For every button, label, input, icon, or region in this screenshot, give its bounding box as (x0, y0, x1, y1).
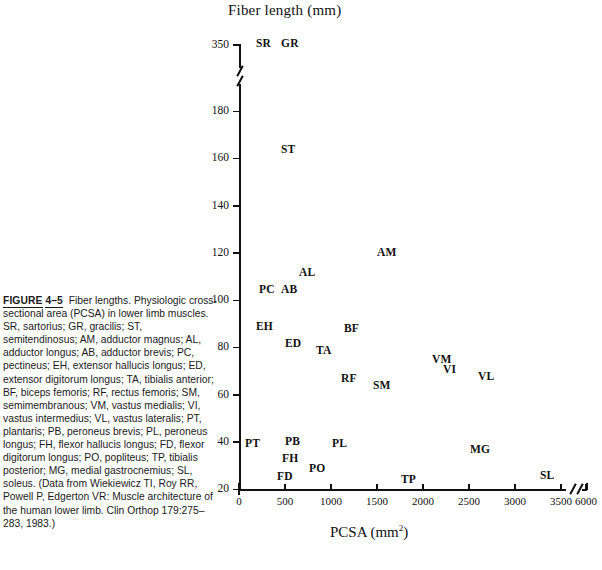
y-tick-label-160: 160 (195, 151, 229, 163)
y-tick-40 (233, 441, 239, 443)
data-point-pc: PC (259, 283, 275, 295)
x-axis-title: PCSA (mm2) (330, 523, 408, 541)
x-tick-6000 (585, 484, 587, 490)
figure-caption-text: Fiber lengths. Physiologic cross-section… (3, 295, 217, 529)
data-point-sm: SM (373, 379, 391, 391)
y-tick-350 (233, 45, 239, 47)
y-tick-120 (233, 252, 239, 254)
data-point-fd: FD (277, 470, 293, 482)
x-tick-label-500: 500 (262, 495, 308, 507)
x-tick-1000 (330, 484, 332, 490)
data-point-ab: AB (281, 283, 297, 295)
y-tick-60 (233, 394, 239, 396)
x-axis-title-close: ) (403, 524, 408, 540)
x-tick-3000 (514, 484, 516, 490)
x-tick-label-2000: 2000 (400, 495, 446, 507)
x-tick-1500 (376, 484, 378, 490)
x-tick-2500 (468, 484, 470, 490)
x-tick-label-2500: 2500 (446, 495, 492, 507)
x-tick-label-1500: 1500 (354, 495, 400, 507)
figure-caption: FIGURE 4–5 Fiber lengths. Physiologic cr… (3, 294, 217, 530)
data-point-rf: RF (341, 372, 357, 384)
y-tick-20 (233, 489, 239, 491)
data-point-vi: VI (443, 363, 456, 375)
data-point-am: AM (377, 246, 397, 258)
figure-number: FIGURE 4–5 (3, 295, 63, 308)
y-axis-line (239, 44, 241, 490)
x-tick-3500 (560, 484, 562, 490)
data-point-ta: TA (316, 344, 332, 356)
y-tick-label-text: 350 (195, 38, 229, 50)
y-tick-label-text: 160 (195, 151, 229, 163)
data-point-bf: BF (344, 322, 359, 334)
x-tick-label-6000: 6000 (563, 495, 602, 507)
figure-label-prefix: FIGURE (3, 295, 43, 308)
x-tick-label-0: 0 (216, 495, 262, 507)
y-tick-label-text: 120 (195, 246, 229, 258)
x-axis-title-text: PCSA (mm (330, 524, 399, 540)
y-tick-160 (233, 158, 239, 160)
data-point-pl: PL (332, 437, 347, 449)
data-point-fh: FH (282, 452, 298, 464)
data-point-eh: EH (256, 320, 273, 332)
y-tick-label-text: 140 (195, 199, 229, 211)
data-point-pb: PB (285, 435, 300, 447)
chart-title: Fiber length (mm) (228, 2, 341, 19)
data-point-tp: TP (401, 473, 416, 485)
x-tick-500 (284, 484, 286, 490)
x-tick-2000 (422, 484, 424, 490)
y-tick-label-350: 350 (195, 38, 229, 50)
data-point-vl: VL (478, 370, 494, 382)
data-point-al: AL (299, 266, 315, 278)
data-point-ed: ED (285, 337, 301, 349)
data-point-sl: SL (540, 469, 554, 481)
y-tick-label-180: 180 (195, 104, 229, 116)
data-point-po: PO (309, 462, 325, 474)
data-point-mg: MG (470, 443, 490, 455)
data-point-pt: PT (245, 437, 260, 449)
figure-number-value: 4–5 (45, 295, 62, 308)
y-tick-80 (233, 347, 239, 349)
data-point-st: ST (281, 143, 295, 155)
y-tick-100 (233, 300, 239, 302)
y-tick-140 (233, 205, 239, 207)
x-tick-label-3000: 3000 (492, 495, 538, 507)
y-tick-label-120: 120 (195, 246, 229, 258)
x-tick-label-1000: 1000 (308, 495, 354, 507)
y-tick-label-text: 180 (195, 104, 229, 116)
data-point-sr: SR (256, 37, 271, 49)
data-point-gr: GR (281, 37, 299, 49)
y-tick-label-140: 140 (195, 199, 229, 211)
x-axis-line (239, 489, 587, 491)
y-tick-180 (233, 111, 239, 113)
